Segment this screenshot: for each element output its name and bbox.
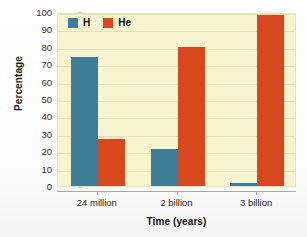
- y-axis-tick-label: 80: [26, 43, 52, 53]
- y-axis-tick-label: 100: [26, 8, 52, 18]
- bar-group: [151, 14, 205, 186]
- x-axis-tick-label: 3 billion: [240, 198, 272, 208]
- y-axis-tick-labels: 0102030405060708090100: [26, 13, 52, 187]
- legend-swatch-icon: [68, 18, 78, 28]
- x-axis-tick-mark: [177, 191, 178, 195]
- x-axis-tick-label: 2 billion: [160, 198, 192, 208]
- y-axis-tick-label: 30: [26, 130, 52, 140]
- bar-chart: Percentage 0102030405060708090100 H He 2…: [0, 0, 307, 237]
- bars-layer: [58, 14, 295, 186]
- legend-label-h: H: [83, 18, 90, 28]
- legend-label-he: He: [118, 18, 131, 28]
- bar-he-1: [178, 47, 205, 186]
- x-axis-title: Time (years): [57, 216, 296, 227]
- x-axis-tick-mark: [97, 191, 98, 195]
- y-axis-tick-label: 0: [26, 182, 52, 192]
- bar-group: [71, 14, 125, 186]
- y-axis-tick-label: 60: [26, 78, 52, 88]
- bar-he-2: [257, 15, 284, 186]
- bar-he-0: [98, 139, 125, 186]
- legend-item-h: H: [68, 18, 90, 28]
- y-axis-tick-label: 10: [26, 165, 52, 175]
- legend-swatch-icon: [103, 18, 113, 28]
- y-axis-tick-label: 70: [26, 60, 52, 70]
- y-axis-tick-label: 90: [26, 26, 52, 36]
- x-axis-tick-label: 24 million: [77, 198, 117, 208]
- x-axis-tick-labels: 24 million2 billion3 billion: [57, 198, 296, 212]
- y-axis-title: Percentage: [13, 34, 24, 134]
- y-axis-tick-label: 20: [26, 147, 52, 157]
- bar-h-1: [151, 149, 178, 186]
- bar-h-0: [71, 57, 98, 186]
- plot-area: H He: [57, 13, 296, 187]
- bar-h-2: [230, 183, 257, 186]
- bar-group: [230, 14, 284, 186]
- y-axis-tick-label: 50: [26, 95, 52, 105]
- legend-item-he: He: [103, 18, 131, 28]
- x-axis-tick-mark: [256, 191, 257, 195]
- legend: H He: [68, 18, 131, 28]
- y-axis-tick-label: 40: [26, 113, 52, 123]
